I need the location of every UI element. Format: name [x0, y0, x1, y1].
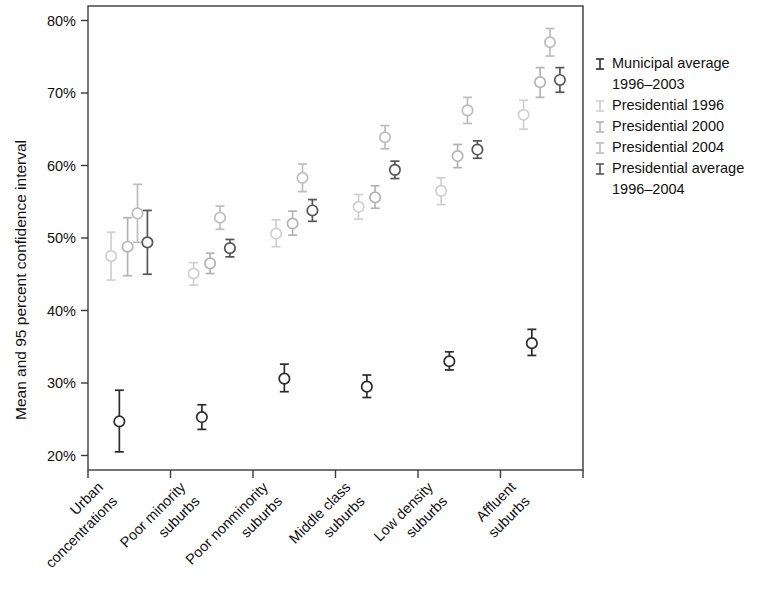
x-axis-label-group: Low densitysuburbs	[371, 478, 451, 558]
mean-marker	[527, 338, 537, 348]
legend-label-line1: Presidential 2004	[612, 139, 724, 155]
legend-entry: Municipal average1996–2003	[596, 55, 730, 92]
y-tick-label: 60%	[47, 158, 76, 174]
x-axis-labels: UrbanconcentrationsPoor minoritysuburbsP…	[28, 478, 533, 581]
plot-border	[88, 6, 583, 470]
data-point	[215, 206, 225, 229]
plot-frame	[88, 6, 583, 470]
x-axis-ticks	[88, 470, 583, 478]
data-point	[271, 220, 281, 247]
data-point	[444, 352, 454, 370]
error-bar-chart: Mean and 95 percent confidence interval …	[0, 0, 775, 602]
data-point	[436, 178, 446, 205]
data-point	[297, 164, 307, 192]
mean-marker	[188, 268, 198, 278]
mean-marker	[545, 37, 555, 47]
mean-marker	[197, 412, 207, 422]
x-axis-label-group: Affluentsuburbs	[471, 479, 533, 541]
legend-label-line2: 1996–2003	[612, 76, 685, 92]
data-point	[106, 232, 116, 280]
data-point	[114, 390, 124, 452]
y-axis-ticks: 20%30%40%50%60%70%80%	[47, 13, 88, 464]
mean-marker	[380, 132, 390, 142]
data-point	[205, 253, 215, 273]
data-point	[452, 144, 462, 167]
chart-legend: Municipal average1996–2003Presidential 1…	[596, 55, 744, 197]
mean-marker	[518, 110, 528, 120]
data-point	[307, 200, 317, 222]
data-point	[287, 211, 297, 235]
x-axis-label-group: Middle classsuburbs	[286, 479, 368, 561]
y-tick-label: 30%	[47, 375, 76, 391]
series-group	[132, 28, 555, 242]
data-point	[545, 28, 555, 56]
data-point	[142, 210, 152, 274]
legend-entry: Presidential 2004	[596, 139, 724, 155]
data-point	[225, 239, 235, 256]
data-point	[362, 375, 372, 397]
series-group	[142, 68, 565, 275]
data-point	[472, 141, 482, 158]
data-point	[380, 126, 390, 149]
data-point	[390, 161, 400, 178]
series-group	[106, 100, 529, 285]
mean-marker	[205, 258, 215, 268]
mean-marker	[225, 243, 235, 253]
mean-marker	[142, 237, 152, 247]
legend-label-line1: Presidential 2000	[612, 118, 724, 134]
mean-marker	[535, 77, 545, 87]
mean-marker	[472, 144, 482, 154]
y-tick-label: 80%	[47, 13, 76, 29]
mean-marker	[114, 416, 124, 426]
data-point	[353, 195, 363, 220]
legend-entry: Presidential average1996–2004	[596, 160, 744, 197]
mean-marker	[436, 186, 446, 196]
data-point	[535, 68, 545, 98]
legend-label-line1: Municipal average	[612, 55, 730, 71]
legend-label-line1: Presidential average	[612, 160, 744, 176]
data-point	[132, 184, 142, 242]
mean-marker	[132, 208, 142, 218]
data-point	[122, 218, 132, 276]
y-tick-label: 20%	[47, 448, 76, 464]
mean-marker	[353, 202, 363, 212]
mean-marker	[279, 373, 289, 383]
data-point	[279, 364, 289, 392]
y-tick-label: 50%	[47, 230, 76, 246]
mean-marker	[390, 165, 400, 175]
chart-figure: Mean and 95 percent confidence interval …	[0, 0, 775, 602]
y-axis-title-group: Mean and 95 percent confidence interval	[12, 140, 29, 420]
y-tick-label: 70%	[47, 85, 76, 101]
x-axis-label-group: Urbanconcentrations	[28, 479, 120, 571]
legend-label-line1: Presidential 1996	[612, 97, 724, 113]
series-group	[114, 329, 537, 452]
mean-marker	[271, 228, 281, 238]
mean-marker	[444, 356, 454, 366]
legend-entry: Presidential 2000	[596, 118, 724, 134]
mean-marker	[297, 173, 307, 183]
data-point	[188, 263, 198, 285]
mean-marker	[106, 251, 116, 261]
mean-marker	[462, 105, 472, 115]
y-axis-title: Mean and 95 percent confidence interval	[12, 140, 29, 420]
data-point	[527, 329, 537, 355]
x-axis-label-group: Poor nonminoritysuburbs	[182, 478, 285, 581]
mean-marker	[215, 213, 225, 223]
data-point	[197, 405, 207, 430]
data-point	[555, 68, 565, 93]
mean-marker	[362, 381, 372, 391]
mean-marker	[370, 192, 380, 202]
data-points-layer	[106, 28, 565, 451]
legend-entry: Presidential 1996	[596, 97, 724, 113]
data-point	[462, 97, 472, 123]
data-point	[370, 186, 380, 208]
mean-marker	[555, 75, 565, 85]
data-point	[518, 100, 528, 129]
mean-marker	[122, 242, 132, 252]
y-tick-label: 40%	[47, 303, 76, 319]
series-group	[122, 68, 545, 276]
mean-marker	[452, 151, 462, 161]
mean-marker	[307, 205, 317, 215]
mean-marker	[287, 218, 297, 228]
legend-label-line2: 1996–2004	[612, 181, 685, 197]
